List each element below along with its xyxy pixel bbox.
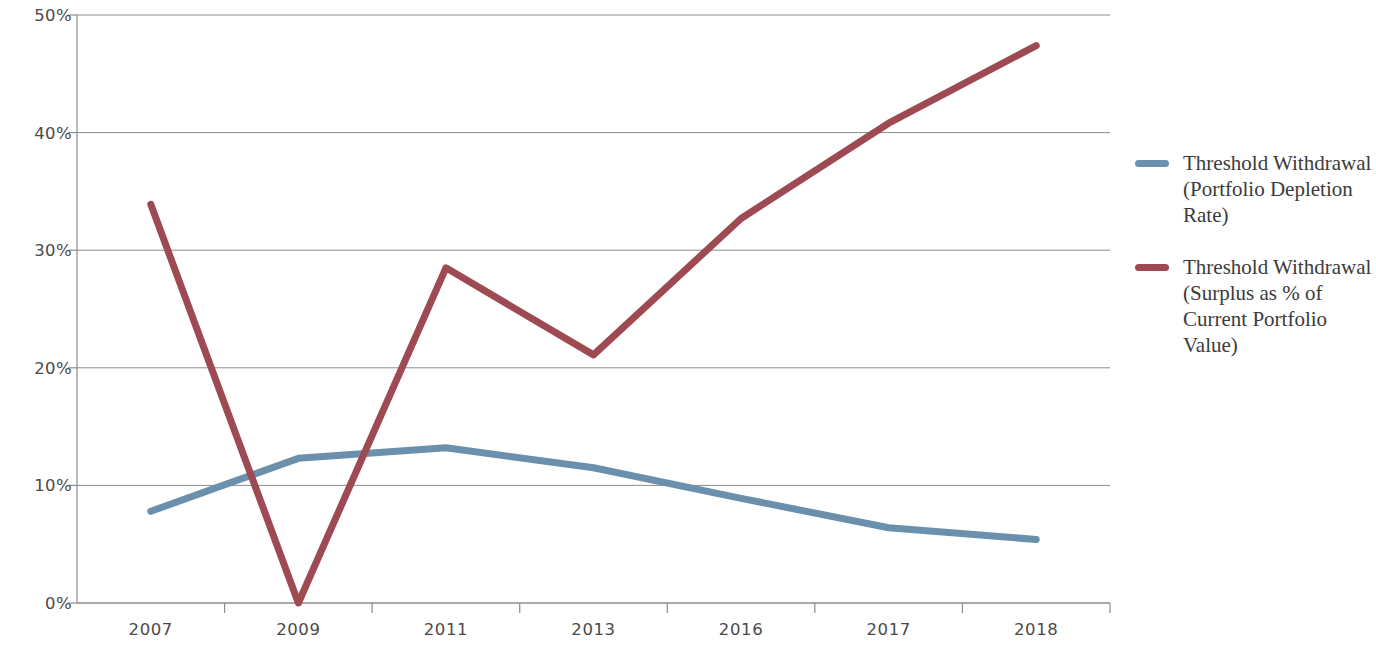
- y-axis-tick-label: 20%: [10, 358, 72, 377]
- y-axis-tick-label: 40%: [10, 123, 72, 142]
- line-chart: 50%40%30%20%10%0% 2007200920112013201620…: [0, 0, 1376, 645]
- y-axis-tick-label: 50%: [10, 6, 72, 25]
- series-line-0: [151, 448, 1036, 540]
- legend-item[interactable]: Threshold Withdrawal (Surplus as % of Cu…: [1135, 254, 1376, 358]
- x-axis-tick-label: 2016: [719, 620, 763, 639]
- series-line-1: [151, 46, 1036, 603]
- y-axis-labels: 50%40%30%20%10%0%: [0, 0, 72, 645]
- legend-color-swatch: [1135, 160, 1169, 167]
- legend-label: Threshold Withdrawal (Portfolio Depletio…: [1183, 150, 1373, 228]
- x-axis-tick-label: 2017: [866, 620, 910, 639]
- data-series-layer: [151, 46, 1036, 603]
- chart-legend: Threshold Withdrawal (Portfolio Depletio…: [1135, 150, 1376, 384]
- legend-label: Threshold Withdrawal (Surplus as % of Cu…: [1183, 254, 1373, 358]
- y-axis-tick-label: 30%: [10, 241, 72, 260]
- gridlines: [77, 15, 1110, 603]
- x-axis-tick-label: 2018: [1014, 620, 1058, 639]
- x-axis-tick-label: 2009: [276, 620, 320, 639]
- x-axis-tick-label: 2011: [424, 620, 468, 639]
- legend-color-swatch: [1135, 264, 1169, 271]
- legend-item[interactable]: Threshold Withdrawal (Portfolio Depletio…: [1135, 150, 1376, 228]
- x-axis-tick-label: 2013: [571, 620, 615, 639]
- x-tick-marks: [225, 603, 1110, 613]
- x-axis-tick-label: 2007: [129, 620, 173, 639]
- y-axis-tick-label: 10%: [10, 476, 72, 495]
- y-axis-tick-label: 0%: [10, 594, 72, 613]
